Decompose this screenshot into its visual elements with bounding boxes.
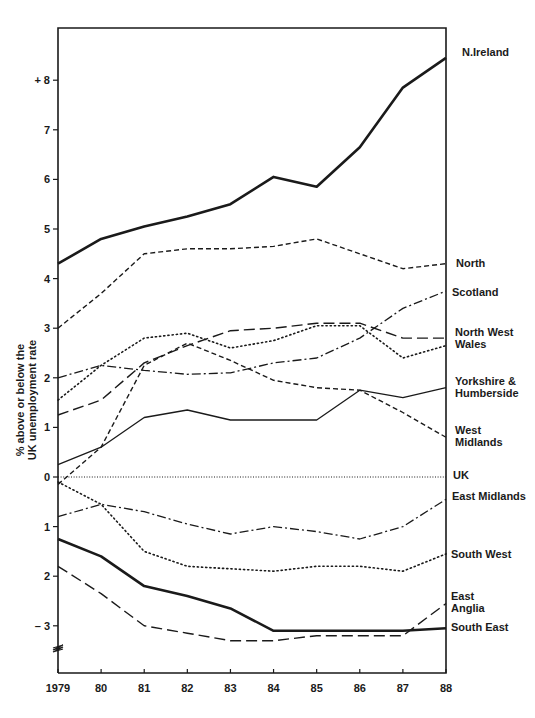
y-tick-label: – 3 [35,620,50,632]
x-tick-label: 85 [311,682,323,694]
x-tick-label: 87 [397,682,409,694]
series-label-north-west-wales: North WestWales [455,326,514,350]
series-line-scotland [58,291,446,378]
y-tick-label: 1 [44,521,50,533]
series-line-n-ireland [58,58,446,264]
series-line-south-west [58,482,446,571]
series-lines [58,58,446,641]
series-line-east-midlands [58,499,446,539]
y-tick-label: 2 [44,372,50,384]
y-tick-label: + 8 [34,74,50,86]
x-tick-label: 83 [224,682,236,694]
x-tick-label: 84 [267,682,280,694]
y-tick-label: 5 [44,223,50,235]
series-line-north-west [58,323,446,415]
regional-unemployment-chart: + 87654321012– 3 1979808182838485868788 … [0,0,535,718]
series-line-north [58,239,446,328]
y-axis-label: % above or below theUK unemployment rate [14,340,38,460]
series-label-south-west: South West [451,548,512,560]
series-line-wales [58,326,446,400]
series-line-yorkshire-humberside [58,388,446,465]
series-label-east-anglia: EastAnglia [451,590,485,614]
x-tick-label: 80 [95,682,107,694]
x-tick-label: 81 [138,682,150,694]
axis-break-icon [53,645,63,652]
y-tick-label: 1 [44,421,50,433]
axes-frame [58,28,446,673]
series-label-west-midlands: WestMidlands [455,424,503,448]
y-tick-label: 2 [44,570,50,582]
series-label-uk: UK [453,469,469,481]
series-label-north: North [456,257,486,269]
y-tick-label: 3 [44,322,50,334]
x-tick-label: 82 [181,682,193,694]
x-tick-label: 86 [354,682,366,694]
series-label-yorkshire-humberside: Yorkshire &Humberside [455,375,519,399]
y-tick-label: 6 [44,173,50,185]
y-tick-label: 4 [44,273,51,285]
series-line-south-east [58,539,446,631]
plot-frame [53,28,446,673]
series-label-south-east: South East [451,621,509,633]
series-label-east-midlands: East Midlands [452,490,526,502]
y-tick-label: 7 [44,124,50,136]
y-axis-title: % above or below theUK unemployment rate [14,340,38,460]
y-tick-label: 0 [44,471,50,483]
series-labels: N.IrelandNorthScotlandNorth WestWalesYor… [451,46,526,633]
x-tick-label: 1979 [46,682,70,694]
x-tick-label: 88 [440,682,452,694]
series-line-west-midlands [58,343,446,484]
series-label-scotland: Scotland [452,286,498,298]
series-label-n-ireland: N.Ireland [462,46,509,58]
